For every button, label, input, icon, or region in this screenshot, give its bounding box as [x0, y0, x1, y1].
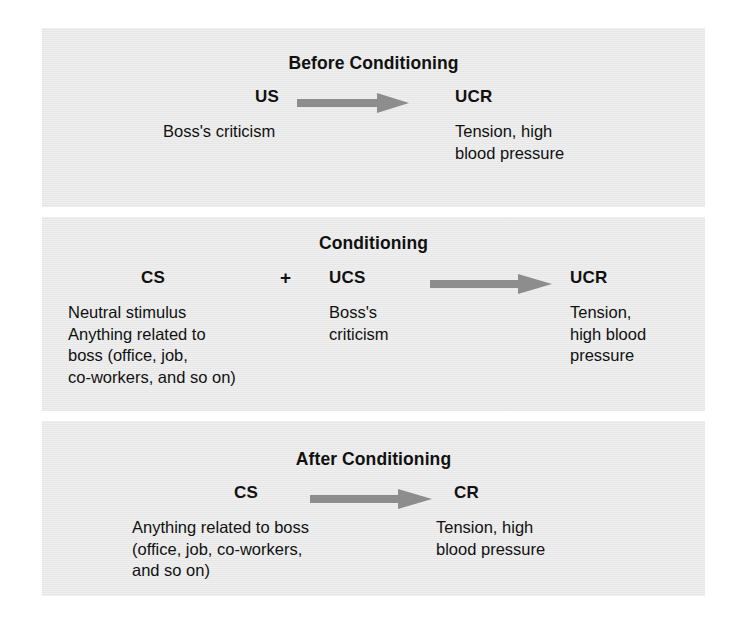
panel-conditioning: Conditioning CS + UCS UCR Neutral stimul… [42, 217, 705, 411]
panel-conditioning-stimulus-text: Neutral stimulus Anything related to bos… [68, 302, 236, 388]
panel-before-response-term: UCR [455, 87, 492, 107]
panel-conditioning-second-text: Boss's criticism [329, 302, 389, 345]
panel-conditioning-second-term: UCS [329, 268, 366, 288]
panel-after-stimulus-term: CS [218, 483, 274, 503]
panel-after-response-term: CR [454, 483, 479, 503]
panel-before-response-text: Tension, high blood pressure [455, 121, 564, 164]
panel-conditioning-stimulus-term: CS [125, 268, 181, 288]
panel-conditioning-response-text: Tension, high blood pressure [570, 302, 646, 367]
panel-after-stimulus-text: Anything related to boss (office, job, c… [132, 517, 309, 582]
panel-conditioning-response-term: UCR [570, 268, 607, 288]
right-arrow-icon [297, 91, 409, 115]
panel-after-conditioning: After Conditioning CS CR Anything relate… [42, 421, 705, 596]
plus-sign-icon: + [280, 267, 291, 289]
classical-conditioning-diagram: Before Conditioning US UCR Boss's critic… [0, 0, 737, 633]
right-arrow-icon [310, 487, 432, 511]
panel-before-title: Before Conditioning [42, 53, 705, 74]
panel-before-conditioning: Before Conditioning US UCR Boss's critic… [42, 28, 705, 207]
panel-after-response-text: Tension, high blood pressure [436, 517, 545, 560]
panel-conditioning-title: Conditioning [42, 233, 705, 254]
panel-before-stimulus-text: Boss's criticism [163, 121, 275, 143]
right-arrow-icon [430, 272, 552, 296]
panel-after-title: After Conditioning [42, 449, 705, 470]
